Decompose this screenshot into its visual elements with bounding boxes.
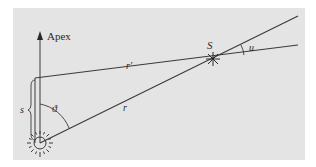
secular-parallax-diagram: Apex r′ r ϑ s S u [0,0,316,167]
r-label: r [123,102,127,113]
s-label: s [20,104,24,115]
apex-label: Apex [47,30,71,42]
star-icon [206,52,220,66]
r-prime-label: r′ [126,60,133,71]
star-label: S [207,39,213,51]
u-label: u [249,42,254,53]
